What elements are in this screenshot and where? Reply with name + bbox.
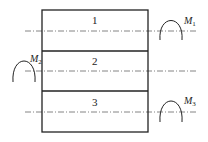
moment-arc-icon-1 <box>160 21 182 41</box>
moment-arc-icon-3 <box>160 101 182 122</box>
moment-label-3: M3 <box>183 95 196 108</box>
layer-label-2: 2 <box>92 55 98 67</box>
layer-label-1: 1 <box>92 14 98 26</box>
moment-label-1: M1 <box>183 15 196 28</box>
moment-arc-icon-2 <box>13 61 35 82</box>
layer-label-3: 3 <box>92 96 98 108</box>
layered-beam-diagram: 1 2 3 M1 M2 M3 <box>0 0 208 142</box>
